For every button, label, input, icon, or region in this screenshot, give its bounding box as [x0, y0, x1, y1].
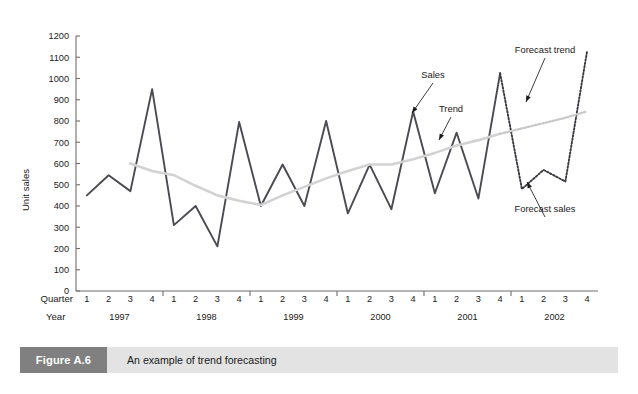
year-row-label: Year: [46, 311, 66, 322]
annotation-label-sales: Sales: [421, 69, 445, 80]
chart-plot-area: 0100200300400500600700800900100011001200…: [0, 0, 638, 340]
x-axis-quarter-label: 4: [150, 294, 155, 304]
y-axis-tick-label: 200: [54, 244, 69, 254]
y-axis: 0100200300400500600700800900100011001200: [49, 31, 80, 296]
x-axis-year-label: 1999: [283, 312, 303, 322]
x-axis-quarter-label: 4: [411, 294, 416, 304]
x-axis-quarter-label: 4: [324, 294, 329, 304]
x-axis-year-label: 1997: [109, 312, 129, 322]
y-axis-tick-label: 1200: [49, 31, 69, 41]
x-axis-quarter-label: 1: [432, 294, 437, 304]
x-axis-quarter-label: 1: [519, 294, 524, 304]
y-axis-tick-label: 700: [54, 138, 69, 148]
figure-caption-text: An example of trend forecasting: [107, 347, 277, 373]
series-line-trend: [130, 134, 500, 205]
x-axis-quarter-label: 3: [128, 294, 133, 304]
x-axis-quarter-label: 4: [237, 294, 242, 304]
annotation-label-forecast-trend: Forecast trend: [515, 44, 575, 55]
annotation-leader-forecast-trend: [526, 58, 545, 102]
y-axis-tick-label: 1000: [49, 74, 69, 84]
y-axis-tick-label: 800: [54, 116, 69, 126]
y-axis-tick-label: 900: [54, 95, 69, 105]
y-axis-tick-label: 500: [54, 180, 69, 190]
x-axis: 1234123412341234123412341997199819992000…: [76, 291, 598, 322]
x-axis-quarter-label: 3: [389, 294, 394, 304]
x-axis-quarter-label: 1: [171, 294, 176, 304]
series-line-forecast-sales: [500, 51, 587, 189]
x-axis-quarter-label: 4: [585, 294, 590, 304]
annotation-label-trend: Trend: [439, 103, 463, 114]
annotation-arrowhead-sales: [412, 107, 418, 113]
y-axis-tick-label: 400: [54, 201, 69, 211]
x-axis-year-label: 1998: [196, 312, 216, 322]
x-axis-quarter-label: 3: [302, 294, 307, 304]
x-axis-quarter-label: 2: [541, 294, 546, 304]
x-axis-quarter-label: 2: [367, 294, 372, 304]
figure-caption-bar: Figure A.6 An example of trend forecasti…: [20, 347, 618, 373]
figure-container: 0100200300400500600700800900100011001200…: [0, 0, 638, 394]
y-axis-tick-label: 1100: [49, 53, 69, 63]
annotation-label-forecast-sales: Forecast sales: [515, 203, 576, 214]
x-axis-year-label: 2002: [544, 312, 564, 322]
x-axis-quarter-label: 2: [193, 294, 198, 304]
figure-number-tag: Figure A.6: [20, 347, 107, 373]
chart-series: [87, 51, 587, 247]
y-axis-title: Unit sales: [20, 169, 31, 211]
x-axis-quarter-label: 1: [84, 294, 89, 304]
annotation-arrowhead-trend: [439, 133, 444, 140]
x-axis-quarter-label: 3: [563, 294, 568, 304]
y-axis-tick-label: 600: [54, 159, 69, 169]
y-axis-tick-label: 300: [54, 223, 69, 233]
y-axis-tick-label: 100: [54, 265, 69, 275]
x-axis-quarter-label: 2: [106, 294, 111, 304]
x-axis-quarter-label: 4: [498, 294, 503, 304]
quarter-row-label: Quarter: [40, 293, 73, 304]
x-axis-quarter-label: 1: [345, 294, 350, 304]
x-axis-quarter-label: 1: [258, 294, 263, 304]
x-axis-year-label: 2000: [370, 312, 390, 322]
x-axis-quarter-label: 2: [280, 294, 285, 304]
series-line-sales: [87, 73, 500, 246]
trend-forecast-chart: 0100200300400500600700800900100011001200…: [0, 0, 638, 340]
annotation-arrowhead-forecast-trend: [526, 95, 531, 102]
x-axis-quarter-label: 3: [215, 294, 220, 304]
x-axis-quarter-label: 2: [454, 294, 459, 304]
x-axis-year-label: 2001: [457, 312, 477, 322]
x-axis-quarter-label: 3: [476, 294, 481, 304]
